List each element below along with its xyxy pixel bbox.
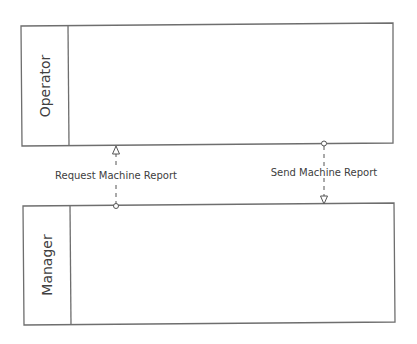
flow-send-label: Send Machine Report	[271, 167, 378, 178]
flow-send-origin-circle-icon	[322, 141, 327, 146]
swimlane-diagram: Operator Manager Request Machine Report …	[0, 0, 417, 344]
flow-request-arrowhead-icon	[113, 146, 120, 154]
lane-operator-label: Operator	[37, 54, 53, 117]
lane-manager-frame	[23, 203, 395, 325]
lane-operator[interactable]: Operator	[21, 23, 393, 146]
flow-request-origin-circle-icon	[114, 204, 119, 209]
lane-manager[interactable]: Manager	[23, 203, 395, 325]
lane-manager-label: Manager	[39, 234, 55, 296]
lane-operator-frame	[21, 23, 393, 146]
flow-request-label: Request Machine Report	[55, 170, 177, 181]
flow-send-machine-report[interactable]: Send Machine Report	[271, 141, 378, 204]
flow-send-arrowhead-icon	[321, 196, 328, 204]
flow-request-machine-report[interactable]: Request Machine Report	[55, 146, 177, 209]
